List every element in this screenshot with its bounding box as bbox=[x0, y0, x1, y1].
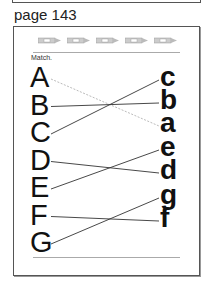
match-line-d-d bbox=[51, 162, 159, 174]
match-line-b-b bbox=[51, 103, 159, 107]
match-line-a-a bbox=[51, 79, 159, 126]
match-line-g-g bbox=[51, 198, 159, 244]
match-lines bbox=[0, 0, 208, 289]
match-line-e-e bbox=[51, 150, 159, 189]
match-line-f-f bbox=[51, 217, 159, 222]
bottom-rule bbox=[33, 257, 180, 258]
match-line-c-c bbox=[51, 80, 159, 134]
